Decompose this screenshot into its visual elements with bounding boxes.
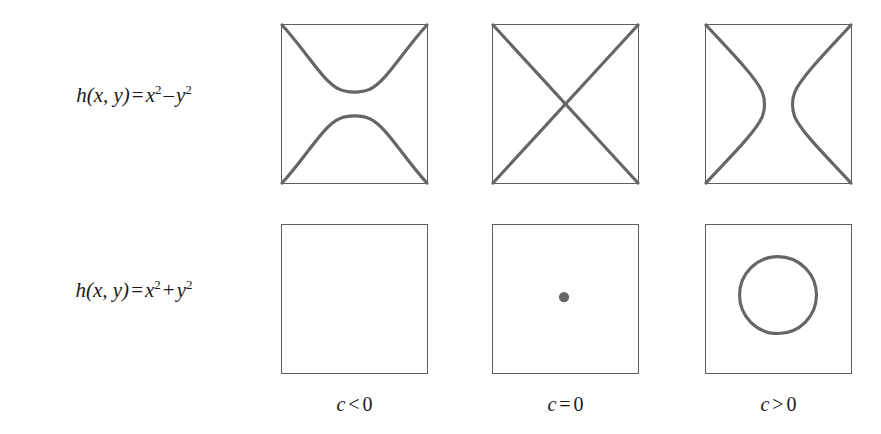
caption-value: 0 [574, 393, 584, 415]
term1-base: x [146, 83, 155, 107]
origin-point-svg [493, 225, 638, 373]
equals-sign: = [130, 83, 146, 107]
column-caption-c-zero: c=0 [492, 394, 639, 414]
row1-operator: + [161, 278, 177, 302]
panel-hyperbolic-c-positive [705, 24, 852, 184]
function-arguments: (x, y) [86, 278, 129, 302]
caption-relation: > [769, 393, 786, 415]
caption-relation: < [345, 393, 362, 415]
term2-base: y [177, 278, 186, 302]
equals-sign: = [129, 278, 145, 302]
origin-point [559, 292, 569, 302]
hyperbola-vertical-svg [282, 25, 427, 183]
caption-variable: c [760, 393, 769, 415]
term2-base: y [176, 83, 185, 107]
hyperbola-right-branch [793, 25, 851, 183]
hyperbola-upper-branch [282, 25, 427, 92]
panel-elliptic-c-zero [492, 224, 639, 374]
function-symbol: h [76, 83, 87, 107]
hyperbola-left-branch [706, 25, 764, 183]
caption-variable: c [547, 393, 556, 415]
column-caption-c-positive: c>0 [705, 394, 852, 414]
hyperbola-horizontal-svg [706, 25, 851, 183]
panel-elliptic-c-negative [281, 224, 428, 374]
column-caption-c-negative: c<0 [281, 394, 428, 414]
caption-value: 0 [787, 393, 797, 415]
hyperbola-lower-branch [282, 116, 427, 183]
caption-relation: = [556, 393, 573, 415]
circle-level-curve-svg [706, 225, 851, 373]
row-label-elliptic-equation: h(x, y)=x2+y2 [0, 280, 268, 301]
term1-exponent: 2 [154, 277, 161, 292]
function-arguments: (x, y) [87, 83, 130, 107]
level-circle [740, 257, 817, 334]
empty-set-svg [282, 225, 427, 373]
term2-exponent: 2 [186, 277, 193, 292]
row-label-hyperbolic-equation: h(x, y)=x2–y2 [0, 85, 268, 106]
level-curves-figure: h(x, y)=x2–y2 h(x, y)=x2+y2 [0, 0, 881, 434]
term2-exponent: 2 [185, 82, 192, 97]
function-symbol: h [75, 278, 86, 302]
crossed-lines-svg [493, 25, 638, 183]
term1-base: x [145, 278, 154, 302]
panel-hyperbolic-c-zero [492, 24, 639, 184]
row0-operator: – [161, 83, 176, 107]
panel-hyperbolic-c-negative [281, 24, 428, 184]
caption-value: 0 [363, 393, 373, 415]
panel-elliptic-c-positive [705, 224, 852, 374]
caption-variable: c [336, 393, 345, 415]
